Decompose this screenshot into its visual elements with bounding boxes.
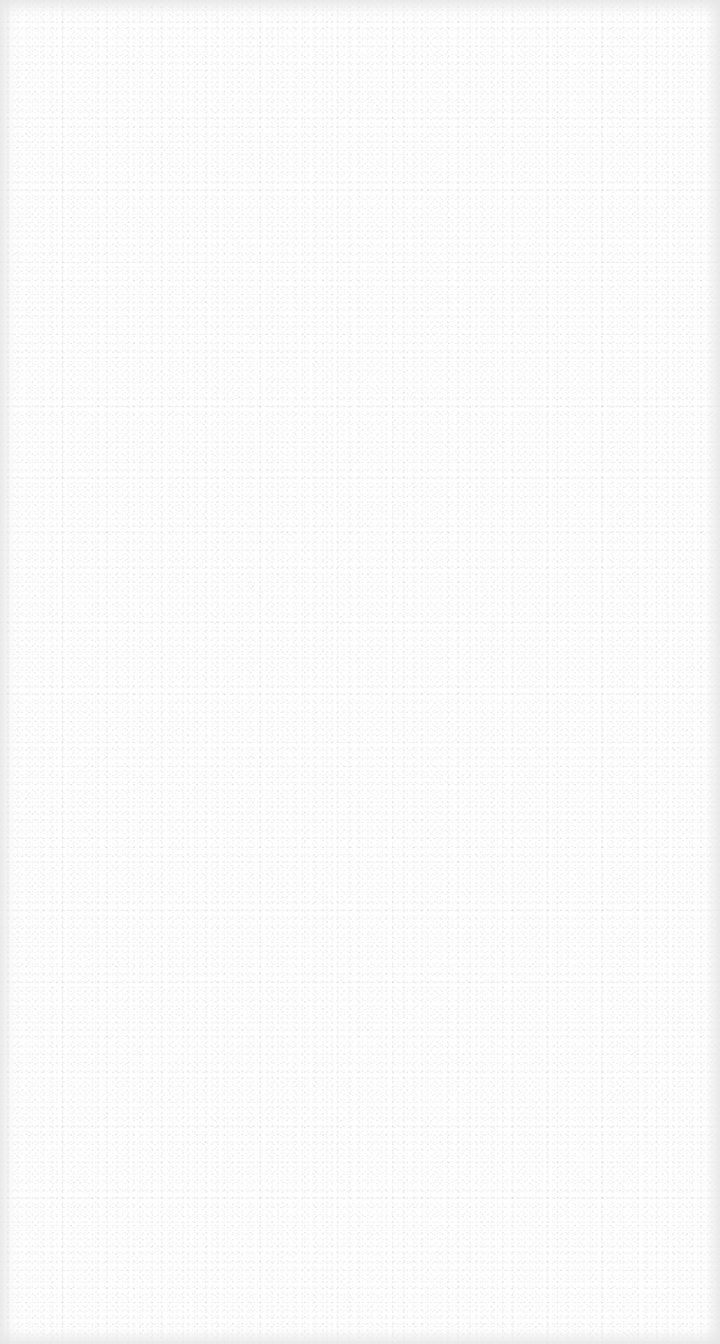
blank-screen	[0, 0, 720, 1344]
edge-vignette	[0, 0, 720, 1344]
